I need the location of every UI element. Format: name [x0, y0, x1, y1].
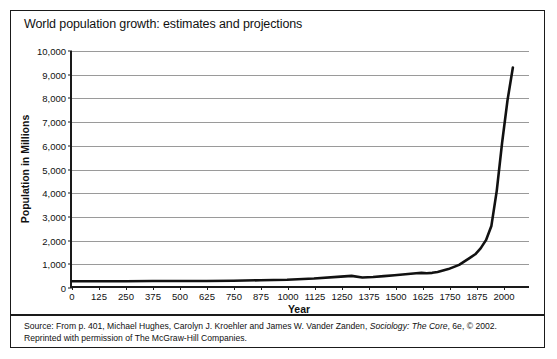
x-tick-mark [261, 286, 262, 290]
y-tick-label: 6,000 [42, 140, 66, 151]
y-tick-label: 10,000 [37, 46, 66, 57]
y-tick-label: 9,000 [42, 69, 66, 80]
y-tick-label: 4,000 [42, 188, 66, 199]
x-tick-label: 0 [69, 291, 74, 302]
x-tick-label: 875 [253, 291, 269, 302]
x-tick-mark [423, 286, 424, 290]
y-tick-label: 7,000 [42, 117, 66, 128]
chart-title: World population growth: estimates and p… [24, 17, 302, 31]
y-tick-label: 3,000 [42, 211, 66, 222]
x-tick-mark [234, 286, 235, 290]
x-tick-mark [288, 286, 289, 290]
y-axis-label: Population in Millions [19, 115, 31, 224]
x-tick-label: 1250 [331, 291, 352, 302]
y-tick-label: 2,000 [42, 235, 66, 246]
x-tick-mark [342, 286, 343, 290]
x-tick-label: 1625 [412, 291, 433, 302]
x-tick-mark [315, 286, 316, 290]
x-tick-label: 1875 [466, 291, 487, 302]
chart-area: Population in Millions Year 01,0002,0003… [11, 37, 544, 311]
x-tick-label: 1125 [305, 291, 325, 302]
footer-divider [11, 314, 544, 316]
x-tick-label: 500 [172, 291, 188, 302]
x-tick-mark [207, 286, 208, 290]
x-tick-mark [477, 286, 478, 290]
x-tick-label: 625 [199, 291, 215, 302]
x-tick-label: 125 [91, 291, 107, 302]
figure-panel: World population growth: estimates and p… [10, 10, 545, 348]
source-note: Source: From p. 401, Michael Hughes, Car… [24, 321, 534, 344]
y-tick-label: 8,000 [42, 93, 66, 104]
y-tick-label: 0 [61, 283, 66, 294]
x-tick-mark [153, 286, 154, 290]
x-tick-mark [126, 286, 127, 290]
y-tick-label: 1,000 [42, 259, 66, 270]
population-curve [72, 51, 529, 286]
x-tick-label: 1500 [385, 291, 406, 302]
x-tick-label: 250 [118, 291, 134, 302]
source-text-post: , 6e, © 2002. [448, 321, 497, 331]
source-text-pre: Source: From p. 401, Michael Hughes, Car… [24, 321, 370, 331]
x-tick-mark [504, 286, 505, 290]
y-tick-label: 5,000 [42, 164, 66, 175]
x-tick-mark [450, 286, 451, 290]
x-tick-mark [369, 286, 370, 290]
x-tick-mark [396, 286, 397, 290]
x-tick-label: 750 [226, 291, 242, 302]
x-tick-label: 1000 [277, 291, 298, 302]
x-tick-mark [99, 286, 100, 290]
x-tick-mark [180, 286, 181, 290]
x-tick-label: 2000 [493, 291, 514, 302]
source-text-line2: Reprinted with permission of The McGraw-… [24, 333, 247, 343]
x-tick-label: 1375 [358, 291, 379, 302]
x-tick-label: 1750 [439, 291, 460, 302]
plot-region: 01,0002,0003,0004,0005,0006,0007,0008,00… [70, 51, 529, 288]
x-tick-mark [72, 286, 73, 290]
source-title-italic: Sociology: The Core [370, 321, 448, 331]
x-tick-label: 375 [145, 291, 161, 302]
